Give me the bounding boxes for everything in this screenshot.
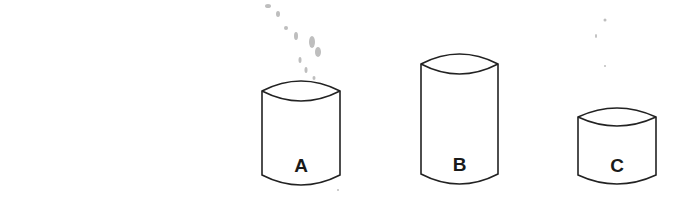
container-label: B	[453, 154, 467, 175]
container-c: C	[578, 108, 656, 184]
containers-diagram: ABC	[0, 0, 676, 222]
container-label: C	[610, 155, 624, 176]
container-b: B	[421, 54, 498, 184]
container-a: A	[262, 81, 340, 185]
container-label: A	[294, 155, 308, 176]
